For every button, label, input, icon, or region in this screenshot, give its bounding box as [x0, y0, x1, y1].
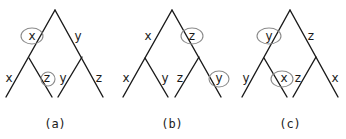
subtree-label-z: z — [177, 71, 183, 85]
subtree-label-y: y — [59, 71, 66, 85]
subtree-label-x: x — [331, 71, 338, 85]
tree-caption: (a) — [44, 117, 66, 131]
subtree-label-y: y — [215, 71, 222, 85]
subtree-label-z: z — [189, 29, 195, 43]
subtree-label-x: x — [28, 29, 35, 43]
tree-caption: (c) — [279, 117, 301, 131]
subtree-label-z: z — [295, 71, 301, 85]
subtree-label-y: y — [161, 71, 168, 85]
subtree-label-x: x — [144, 29, 151, 43]
subtree-label-x: x — [5, 71, 12, 85]
subtree-label-y: y — [74, 29, 81, 43]
subtree-label-y: y — [242, 71, 249, 85]
subtree-label-y: y — [265, 29, 272, 43]
tree-rotation-diagram: xyxzyz(a)xzxyzy(b)yzyxzx(c) — [0, 0, 346, 139]
tree-caption: (b) — [161, 117, 183, 131]
tree-a: xyxzyz(a) — [5, 10, 103, 131]
subtree-label-x: x — [280, 71, 287, 85]
tree-c: yzyxzx(c) — [242, 10, 339, 131]
subtree-label-z: z — [44, 71, 50, 85]
subtree-label-z: z — [308, 29, 314, 43]
diagram-svg: xyxzyz(a)xzxyzy(b)yzyxzx(c) — [0, 0, 346, 139]
tree-b: xzxyzy(b) — [122, 10, 229, 131]
subtree-label-z: z — [96, 71, 102, 85]
subtree-label-x: x — [122, 71, 129, 85]
